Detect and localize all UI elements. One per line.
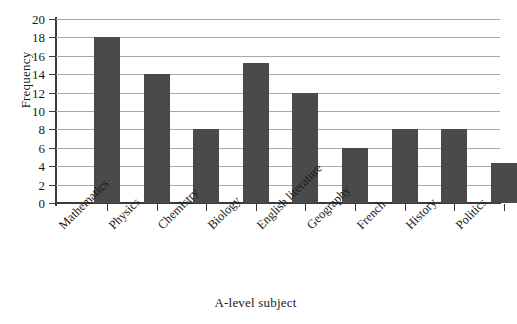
x-tick-mark (355, 204, 356, 211)
y-tick-label: 12 (32, 86, 45, 99)
gridline (56, 185, 500, 186)
x-tick-mark (305, 204, 306, 211)
x-tick-mark (454, 204, 455, 211)
y-tick-mark (49, 148, 55, 149)
y-tick-label: 20 (32, 13, 45, 26)
y-tick-mark (49, 74, 55, 75)
bar (491, 163, 517, 203)
bar (441, 129, 467, 203)
x-tick-mark (206, 204, 207, 211)
gridline (56, 37, 500, 38)
y-tick-label: 18 (32, 31, 45, 44)
gridline (56, 111, 500, 112)
x-axis-title: A-level subject (0, 295, 511, 311)
x-tick-mark (107, 204, 108, 211)
gridline (56, 19, 500, 20)
x-tick-mark (405, 204, 406, 211)
y-tick-mark (49, 56, 55, 57)
y-tick-mark (49, 19, 55, 20)
y-tick-mark (49, 93, 55, 94)
y-tick-mark (49, 166, 55, 167)
y-tick-label: 0 (39, 197, 46, 210)
y-tick-label: 4 (39, 160, 46, 173)
y-tick-label: 6 (39, 141, 46, 154)
gridline (56, 129, 500, 130)
gridline (56, 166, 500, 167)
bar (243, 63, 269, 203)
y-tick-label: 10 (32, 105, 45, 118)
y-tick-label: 8 (39, 123, 46, 136)
x-tick-mark (256, 204, 257, 211)
bar (144, 74, 170, 203)
gridline (56, 56, 500, 57)
gridline (56, 74, 500, 75)
plot-area: 02468101214161820 (56, 19, 500, 203)
y-tick-mark (49, 129, 55, 130)
y-tick-label: 2 (39, 178, 46, 191)
y-tick-label: 16 (32, 49, 45, 62)
y-tick-mark (49, 37, 55, 38)
x-tick-mark (157, 204, 158, 211)
bar (392, 129, 418, 203)
gridline (56, 148, 500, 149)
y-tick-label: 14 (32, 68, 45, 81)
y-tick-mark (49, 203, 55, 204)
y-tick-mark (49, 111, 55, 112)
x-tick-mark (504, 204, 505, 211)
gridline (56, 93, 500, 94)
y-tick-mark (49, 185, 55, 186)
